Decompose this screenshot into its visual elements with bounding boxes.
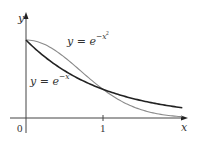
label-exp-main: y = e (29, 75, 59, 88)
y-axis-label: y (17, 12, 25, 25)
y-axis-arrow-icon (24, 12, 29, 19)
curve-exp-neg-x (26, 40, 182, 108)
chart-canvas: y x 0 1 y = e −x 2 y = e −x (0, 0, 203, 145)
x-tick-label-1: 1 (100, 122, 106, 134)
origin-label: 0 (17, 122, 23, 134)
label-gauss-exponent-power: 2 (106, 30, 109, 36)
label-gauss-main: y = e (66, 35, 96, 48)
label-exp-exponent: −x (59, 72, 70, 81)
label-gauss: y = e −x 2 (66, 30, 109, 48)
label-exp: y = e −x (29, 72, 70, 88)
x-axis-label: x (181, 121, 188, 134)
